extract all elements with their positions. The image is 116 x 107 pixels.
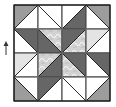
quilt-block-diagram: [0, 0, 116, 107]
arrow-up-icon: [3, 41, 9, 55]
